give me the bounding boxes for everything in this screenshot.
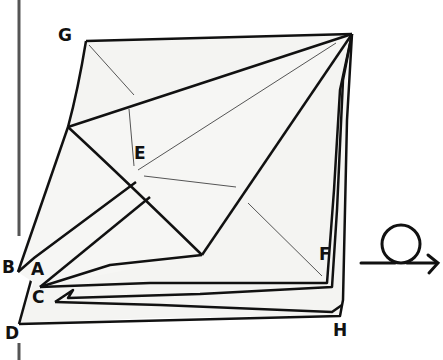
point-label-e: E: [134, 145, 146, 162]
point-label-d: D: [5, 325, 19, 342]
point-label-g: G: [58, 27, 72, 44]
point-label-c: C: [32, 289, 44, 306]
origami-diagram: [0, 0, 443, 360]
point-label-f: F: [319, 246, 331, 263]
point-label-b: B: [2, 259, 15, 276]
point-label-h: H: [333, 322, 347, 339]
turn-over-icon: [361, 225, 438, 273]
point-label-a: A: [31, 261, 44, 278]
